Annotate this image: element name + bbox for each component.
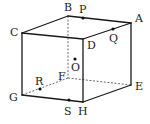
point-q-dot — [111, 27, 114, 30]
vertex-label-f: F — [58, 70, 66, 83]
point-p-dot — [81, 16, 84, 19]
hidden-edge-FE — [68, 78, 131, 85]
point-label-s: S — [64, 105, 72, 118]
edge-GH — [22, 95, 83, 102]
cube-diagram: ABCDEFGHPQORS — [0, 0, 150, 124]
vertex-label-e: E — [135, 80, 143, 93]
marked-points — [38, 16, 114, 101]
point-label-q: Q — [109, 32, 118, 45]
vertex-label-b: B — [64, 1, 72, 14]
cube-svg: ABCDEFGHPQORS — [0, 0, 150, 124]
vertex-label-d: D — [87, 39, 96, 52]
edge-CD — [22, 33, 83, 39]
point-s-dot — [67, 98, 70, 101]
vertex-label-a: A — [134, 12, 144, 25]
point-label-r: R — [35, 75, 44, 88]
vertex-label-c: C — [10, 26, 18, 39]
edge-CB — [22, 16, 68, 33]
edge-DA — [83, 23, 131, 39]
point-label-o: O — [71, 61, 80, 74]
vertex-label-g: G — [9, 91, 18, 104]
edge-BA — [68, 16, 131, 23]
edge-HE — [83, 85, 131, 102]
vertex-label-h: H — [78, 105, 88, 118]
point-label-p: P — [79, 3, 87, 16]
